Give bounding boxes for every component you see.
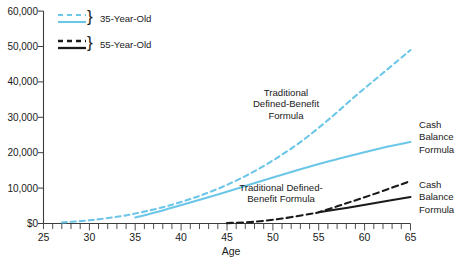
x-tick-label-55: 55 [302,231,336,243]
legend-brace-icon: } [87,7,93,27]
y-tick-label-60000: 60,000 [0,6,38,18]
legend-swatch-55-year-old [57,35,87,55]
x-tick-label-30: 30 [72,231,106,243]
y-axis-ticks [38,11,44,223]
annotation-line: Balance [419,131,454,143]
legend-swatch-35-year-old [57,9,87,29]
annotation-line: Formula [419,144,454,156]
y-tick-label-40000: 40,000 [0,76,38,88]
legend-label-35-year-old: 35-Year-Old [100,13,151,24]
annotation-traditional-db-lower: Traditional Defined- Benefit Formula [222,182,340,205]
annotation-line: Formula [419,204,454,216]
y-tick-label-10000: 10,000 [0,183,38,195]
annotation-line: Defined-Benefit [238,98,334,109]
annotation-line: Cash [419,179,454,191]
legend-brace-icon: } [87,33,93,53]
annotation-traditional-db-upper: Traditional Defined-Benefit Formula [238,87,334,121]
series-line-35yo-cash-balance [135,142,410,217]
legend-entry-35-year-old[interactable]: } 35-Year-Old [57,9,217,31]
annotation-cash-balance-lower: Cash Balance Formula [419,179,454,216]
x-tick-label-45: 45 [210,231,244,243]
legend-label-55-year-old: 55-Year-Old [100,39,151,50]
legend-entry-55-year-old[interactable]: } 55-Year-Old [57,35,217,57]
chart-legend: } 35-Year-Old } 55-Year-Old [57,9,217,55]
x-tick-label-40: 40 [164,231,198,243]
y-tick-label-0: $0 [0,218,38,230]
y-tick-label-30000: 30,000 [0,112,38,124]
annotation-line: Cash [419,119,454,131]
x-axis-minor-ticks [44,224,411,231]
x-axis-title: Age [206,245,256,257]
annotation-line: Balance [419,191,454,203]
x-tick-label-60: 60 [348,231,382,243]
annotation-line: Formula [238,110,334,121]
annotation-line: Benefit Formula [222,193,340,204]
annotation-line: Traditional [238,87,334,98]
y-tick-label-50000: 50,000 [0,41,38,53]
y-tick-label-20000: 20,000 [0,147,38,159]
x-tick-label-50: 50 [256,231,290,243]
chart-figure: $0 10,000 20,000 30,000 40,000 50,000 60… [0,0,463,264]
x-tick-label-65: 65 [394,231,428,243]
annotation-line: Traditional Defined- [222,182,340,193]
x-tick-label-25: 25 [27,231,61,243]
x-tick-label-35: 35 [118,231,152,243]
annotation-cash-balance-upper: Cash Balance Formula [419,119,454,156]
